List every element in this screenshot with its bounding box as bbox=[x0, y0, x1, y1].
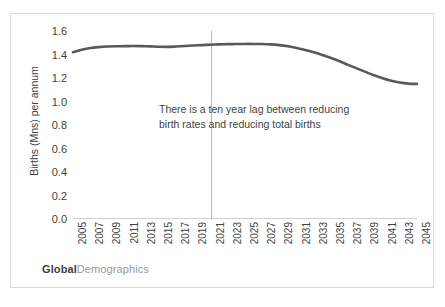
x-tick-label: 2005 bbox=[77, 222, 88, 244]
y-axis-title: Births (Mns) per annum bbox=[28, 36, 40, 206]
x-tick-label: 2017 bbox=[180, 222, 191, 244]
y-tick-label: 1.4 bbox=[52, 49, 67, 61]
x-tick-label: 2013 bbox=[146, 222, 157, 244]
y-tick-label: 0.8 bbox=[52, 119, 67, 131]
births-line-path bbox=[73, 44, 417, 84]
x-tick-label: 2029 bbox=[283, 222, 294, 244]
y-tick-label: 1.0 bbox=[52, 96, 67, 108]
y-tick-label: 0.4 bbox=[52, 166, 67, 178]
y-tick-label: 1.6 bbox=[52, 25, 67, 37]
x-tick-label: 2027 bbox=[266, 222, 277, 244]
x-tick-label: 2039 bbox=[369, 222, 380, 244]
x-tick-label: 2037 bbox=[352, 222, 363, 244]
x-tick-label: 2021 bbox=[215, 222, 226, 244]
x-tick-label: 2023 bbox=[232, 222, 243, 244]
y-tick-label: 1.2 bbox=[52, 72, 67, 84]
x-tick-label: 2045 bbox=[421, 222, 432, 244]
x-tick-label: 2043 bbox=[404, 222, 415, 244]
brand-primary-text: Global bbox=[42, 263, 77, 275]
x-tick-label: 2025 bbox=[249, 222, 260, 244]
x-tick-label: 2007 bbox=[94, 222, 105, 244]
y-tick-label: 0.2 bbox=[52, 190, 67, 202]
brand-logo: GlobalDemographics bbox=[42, 263, 149, 275]
x-tick-label: 2015 bbox=[163, 222, 174, 244]
x-tick-label: 2035 bbox=[335, 222, 346, 244]
x-tick-label: 2019 bbox=[197, 222, 208, 244]
x-tick-label: 2033 bbox=[318, 222, 329, 244]
y-tick-label: 0.0 bbox=[52, 213, 67, 225]
x-tick-label: 2041 bbox=[387, 222, 398, 244]
ten-year-lag-annotation: There is a ten year lag between reducing… bbox=[159, 102, 364, 132]
x-tick-label: 2011 bbox=[129, 222, 140, 244]
y-tick-label: 0.6 bbox=[52, 143, 67, 155]
x-tick-label: 2031 bbox=[301, 222, 312, 244]
brand-secondary-text: Demographics bbox=[77, 263, 149, 275]
x-tick-label: 2009 bbox=[111, 222, 122, 244]
chart-card: Births (Mns) per annum 1.61.41.21.00.80.… bbox=[10, 13, 434, 288]
